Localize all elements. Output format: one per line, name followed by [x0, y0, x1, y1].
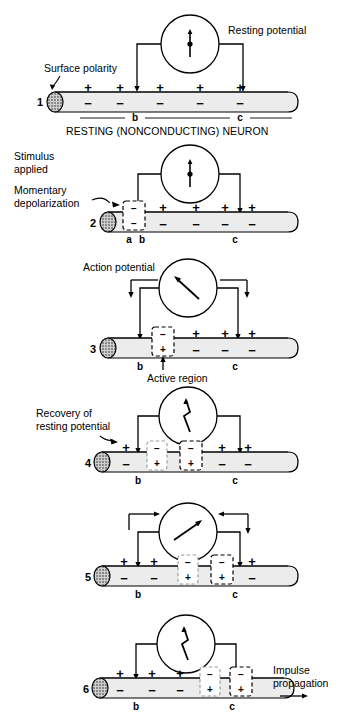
panel-number-5: 5	[85, 571, 91, 583]
svg-text:+: +	[192, 200, 200, 215]
current-arrow-right-5	[218, 511, 224, 516]
recovering-region-box-5: − +	[178, 555, 198, 584]
axon-endcap-1	[47, 92, 63, 112]
label-b-6: b	[133, 701, 139, 712]
svg-text:−: −	[148, 683, 156, 698]
svg-text:+: +	[196, 80, 204, 95]
svg-text:−: −	[218, 457, 226, 472]
svg-text:+: +	[238, 684, 244, 695]
lead-tip-b-1	[134, 86, 139, 92]
current-arrow-left-5	[154, 511, 160, 516]
svg-text:+: +	[160, 344, 166, 355]
panel-6-graphic: − + − + + + + − − − b c 6 Impulse propag…	[0, 606, 340, 717]
label-c-5: c	[232, 589, 238, 600]
panel-3-graphic: − + + + + − − − b c 3 Action potential A…	[0, 258, 340, 388]
galvanometer-1	[161, 15, 219, 73]
svg-text:−: −	[248, 343, 256, 358]
svg-text:−: −	[192, 343, 200, 358]
depolarization-box-2: − −	[123, 201, 145, 230]
active-region-box-4: − +	[180, 441, 202, 470]
svg-text:+: +	[156, 80, 164, 95]
svg-text:−: −	[150, 571, 158, 586]
svg-text:−: −	[131, 203, 137, 214]
label-b-1: b	[132, 112, 138, 123]
callout-recovery-line1: Recovery of	[36, 407, 92, 419]
recovering-region-box-4: − +	[147, 441, 167, 470]
panel-5: − + − + + + + − − − b c 5	[0, 500, 340, 610]
svg-text:−: −	[160, 329, 166, 340]
svg-text:−: −	[219, 557, 225, 568]
leader-arrow-depolarization	[112, 202, 120, 208]
label-c-3: c	[232, 361, 238, 372]
galvanometer-3	[159, 259, 217, 317]
svg-text:+: +	[248, 326, 256, 341]
axon-endcap-5	[94, 566, 110, 586]
current-arrow-right-3	[244, 292, 249, 298]
panel-1-caption: RESTING (NONCONDUCTING) NEURON	[66, 125, 269, 137]
callout-depolarization-line1: Momentary	[14, 184, 67, 196]
galvanometer-4	[159, 387, 217, 445]
callout-stimulus-line2: applied	[14, 163, 48, 175]
svg-text:−: −	[156, 96, 164, 111]
svg-text:−: −	[192, 217, 200, 232]
svg-text:+: +	[84, 80, 92, 95]
panel-6: − + − + + + + − − − b c 6 Impulse propag…	[0, 606, 340, 717]
callout-stimulus-line1: Stimulus	[14, 150, 54, 162]
callout-depolarization-line2: depolarization	[14, 197, 80, 209]
svg-text:+: +	[148, 666, 156, 681]
svg-text:+: +	[176, 666, 184, 681]
axon-endcap-2	[100, 212, 116, 232]
axon-endcap-6	[92, 678, 108, 698]
panel-number-4: 4	[85, 457, 92, 469]
panel-3: − + + + + − − − b c 3 Action potential A…	[0, 258, 340, 388]
svg-text:+: +	[221, 200, 229, 215]
svg-text:−: −	[244, 457, 252, 472]
svg-text:−: −	[248, 217, 256, 232]
leader-arrow-recovery	[110, 439, 118, 445]
label-b-2: b	[139, 234, 145, 245]
callout-resting-potential: Resting potential	[228, 24, 306, 36]
svg-text:−: −	[116, 96, 124, 111]
svg-text:−: −	[131, 218, 137, 229]
active-region-box-5: − +	[211, 555, 233, 584]
svg-text:+: +	[248, 200, 256, 215]
recovering-region-box-6: − +	[200, 667, 220, 696]
label-b-3: b	[137, 361, 143, 372]
svg-text:+: +	[218, 440, 226, 455]
svg-text:+: +	[188, 458, 194, 469]
impulse-arrow-head	[302, 693, 308, 698]
panel-1-graphic: + + + + + − − − − − b c 1 Surface polari…	[0, 0, 340, 140]
svg-text:−: −	[236, 96, 244, 111]
leader-surface-polarity	[53, 76, 60, 86]
svg-text:−: −	[221, 217, 229, 232]
svg-text:+: +	[192, 326, 200, 341]
svg-text:+: +	[122, 440, 130, 455]
leader-depolarization	[92, 198, 110, 203]
svg-text:−: −	[84, 96, 92, 111]
label-b-5: b	[135, 589, 141, 600]
svg-text:−: −	[116, 683, 124, 698]
svg-text:−: −	[159, 217, 167, 232]
svg-text:+: +	[116, 666, 124, 681]
svg-text:+: +	[236, 80, 244, 95]
label-a-2: a	[126, 234, 132, 245]
svg-text:−: −	[207, 669, 213, 680]
callout-impulse-line1: Impulse	[273, 664, 310, 676]
label-c-2: c	[232, 234, 238, 245]
svg-text:+: +	[221, 326, 229, 341]
panel-number-1: 1	[37, 96, 43, 108]
active-region-box-6: − +	[230, 667, 252, 696]
callout-action-potential: Action potential	[83, 261, 155, 273]
callout-recovery-line2: resting potential	[36, 420, 110, 432]
svg-text:+: +	[244, 440, 252, 455]
svg-text:+: +	[248, 554, 256, 569]
current-arrow-down-5	[245, 528, 250, 534]
svg-text:+: +	[154, 458, 160, 469]
svg-text:−: −	[238, 669, 244, 680]
panel-4: − + − + + + + − − − b c 4 Recovery of re…	[0, 386, 340, 504]
label-b-4: b	[135, 475, 141, 486]
label-c-1: c	[237, 112, 243, 123]
svg-text:+: +	[150, 554, 158, 569]
svg-text:+: +	[219, 572, 225, 583]
svg-text:−: −	[221, 343, 229, 358]
